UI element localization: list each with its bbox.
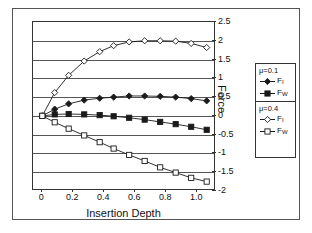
filled-square-marker <box>82 112 87 117</box>
open-square-marker <box>111 146 116 151</box>
filled-diamond-marker <box>52 106 58 112</box>
filled-square-marker <box>52 112 57 117</box>
y-tick-label: -1 <box>218 148 226 157</box>
filled-square-marker <box>173 122 178 127</box>
filled-diamond-marker <box>81 97 87 103</box>
x-tick-label: 0.6 <box>128 192 141 202</box>
filled-diamond-marker <box>173 94 179 100</box>
x-axis-title: Insertion Depth <box>32 207 215 219</box>
filled-diamond-marker <box>97 95 103 101</box>
filled-diamond-marker <box>204 98 210 104</box>
open-diamond-marker <box>204 44 210 50</box>
filled-diamond-marker <box>142 93 148 99</box>
filled-square-marker <box>127 115 132 120</box>
legend-group: μ=0.4FIFW <box>256 101 295 139</box>
y-tick-mark <box>212 171 216 172</box>
series-f-w-mu-0-1- <box>40 111 210 132</box>
legend-entry-label: FI <box>277 76 284 87</box>
open-diamond-marker <box>142 38 148 44</box>
open-diamond-marker <box>264 116 270 122</box>
y-tick-mark <box>212 21 216 22</box>
open-diamond-marker <box>157 38 163 44</box>
open-diamond-marker <box>188 40 194 46</box>
filled-square-marker <box>142 117 147 122</box>
x-tick-label: 0.8 <box>159 192 172 202</box>
filled-diamond-marker <box>66 101 72 107</box>
open-square-marker <box>204 179 209 184</box>
open-square-legend-swatch <box>259 126 276 137</box>
y-tick-label: 2 <box>218 35 223 44</box>
open-square-marker <box>265 128 270 133</box>
y-tick-label: 1 <box>218 73 223 82</box>
legend-entry: FW <box>259 87 295 99</box>
y-tick-label: -1.5 <box>218 167 234 176</box>
open-square-marker <box>97 140 102 145</box>
x-tick-mark <box>72 189 73 192</box>
x-tick-mark <box>165 189 166 192</box>
filled-square-marker <box>189 124 194 129</box>
open-diamond-marker <box>111 43 117 49</box>
filled-square-marker <box>265 90 270 95</box>
y-tick-mark <box>212 152 216 153</box>
y-tick-mark <box>212 40 216 41</box>
y-tick-mark <box>212 134 216 135</box>
open-diamond-marker <box>126 39 132 45</box>
filled-square-legend-swatch <box>259 88 276 99</box>
filled-diamond-marker <box>126 93 132 99</box>
legend-entry-label: FI <box>277 114 284 125</box>
y-tick-label: 1.5 <box>218 54 231 63</box>
open-square-marker <box>142 158 147 163</box>
legend-entry: FI <box>259 113 295 125</box>
filled-square-marker <box>66 111 71 116</box>
filled-square-marker <box>97 113 102 118</box>
x-tick-mark <box>134 189 135 192</box>
filled-square-marker <box>158 119 163 124</box>
y-tick-label: 2.5 <box>218 17 231 26</box>
y-tick-mark <box>212 190 216 191</box>
y-tick-mark <box>212 77 216 78</box>
y-tick-mark <box>212 59 216 60</box>
x-axis-labels: 00.20.40.60.81.0 <box>32 192 215 206</box>
y-axis-title: Force <box>216 85 228 113</box>
legend-group-header: μ=0.1 <box>259 66 295 75</box>
open-square-marker <box>66 126 71 131</box>
open-square-marker <box>127 152 132 157</box>
open-square-marker <box>189 175 194 180</box>
open-diamond-marker <box>173 38 179 44</box>
x-tick-mark <box>41 189 42 192</box>
x-tick-label: 1.0 <box>190 192 203 202</box>
open-square-marker <box>158 165 163 170</box>
y-tick-label: -2 <box>218 186 226 195</box>
legend-entry: FI <box>259 75 295 87</box>
data-curves <box>33 22 216 191</box>
filled-diamond-marker <box>111 94 117 100</box>
series-f-i-mu-0-4- <box>39 38 210 119</box>
y-tick-label: -0.5 <box>218 129 234 138</box>
series-f-w-mu-0-4- <box>40 113 210 184</box>
figure: 2.521.510.50-0.5-1-1.5-2 Force 00.20.40.… <box>0 0 312 233</box>
legend-group: μ=0.1FIFW <box>256 64 295 101</box>
x-tick-label: 0.4 <box>97 192 110 202</box>
open-square-marker <box>82 133 87 138</box>
y-tick-mark <box>212 115 216 116</box>
filled-diamond-marker <box>157 93 163 99</box>
legend: μ=0.1FIFWμ=0.4FIFW <box>255 63 296 158</box>
x-tick-label: 0 <box>39 192 44 202</box>
open-square-marker <box>52 120 57 125</box>
plot-area <box>32 21 215 190</box>
filled-square-marker <box>111 114 116 119</box>
x-tick-mark <box>103 189 104 192</box>
legend-entry-label: FW <box>277 88 288 99</box>
open-diamond-marker <box>97 49 103 55</box>
filled-diamond-marker <box>188 96 194 102</box>
x-tick-label: 0.2 <box>66 192 79 202</box>
open-square-marker <box>173 170 178 175</box>
legend-entry: FW <box>259 125 295 137</box>
open-diamond-legend-swatch <box>259 114 276 125</box>
series-f-i-mu-0-1- <box>39 93 210 119</box>
filled-diamond-legend-swatch <box>259 76 276 87</box>
filled-diamond-marker <box>264 78 270 84</box>
filled-square-marker <box>204 127 209 132</box>
open-square-marker <box>40 113 45 118</box>
legend-entry-label: FW <box>277 126 288 137</box>
